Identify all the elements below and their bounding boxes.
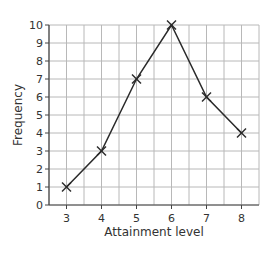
y-axis-label: Frequency [11,84,25,146]
frequency-line-chart: 012345678910 345678 Attainment level Fre… [0,0,270,258]
y-axis-tick-labels: 012345678910 [29,19,49,212]
y-tick-label: 9 [36,37,43,50]
x-axis-tick-labels: 345678 [63,205,245,225]
x-tick-label: 6 [168,212,175,225]
y-tick-label: 6 [36,91,43,104]
y-tick-label: 8 [36,55,43,68]
x-tick-label: 3 [63,212,70,225]
y-tick-label: 3 [36,145,43,158]
y-tick-label: 4 [36,127,43,140]
x-axis-label: Attainment level [104,225,203,239]
x-tick-label: 8 [238,212,245,225]
y-tick-label: 7 [36,73,43,86]
x-tick-label: 4 [98,212,105,225]
y-tick-label: 1 [36,181,43,194]
x-tick-label: 7 [203,212,210,225]
chart-canvas: 012345678910 345678 Attainment level Fre… [0,0,270,258]
x-tick-label: 5 [133,212,140,225]
y-tick-label: 5 [36,109,43,122]
y-tick-label: 0 [36,199,43,212]
y-tick-label: 2 [36,163,43,176]
y-tick-label: 10 [29,19,43,32]
